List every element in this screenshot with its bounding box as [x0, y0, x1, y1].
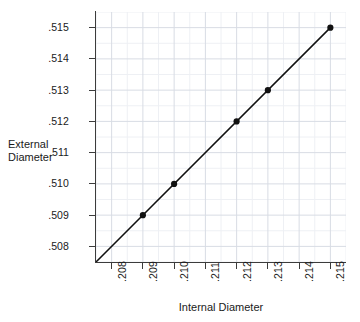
y-axis-tick-label: .513 — [37, 85, 69, 96]
plot-area — [96, 12, 346, 262]
y-axis-tick-label: .508 — [37, 241, 69, 252]
x-axis-tick-mark — [205, 263, 206, 269]
y-axis-tick-mark — [89, 246, 95, 247]
y-axis-tick-mark — [89, 152, 95, 153]
y-axis-title: External Diameter — [8, 138, 68, 163]
y-axis-title-line-2: Diameter — [8, 151, 68, 164]
y-axis-tick-label: .509 — [37, 210, 69, 221]
y-axis-tick-mark — [89, 58, 95, 59]
x-axis-tick-label: .210 — [179, 272, 190, 282]
y-axis-tick-label: .515 — [37, 22, 69, 33]
y-axis-tick-mark — [89, 121, 95, 122]
y-axis-tick-mark — [89, 90, 95, 91]
x-axis-tick-label: .212 — [242, 272, 253, 282]
y-axis-tick-label: .512 — [37, 116, 69, 127]
y-axis-tick-label: .514 — [37, 53, 69, 64]
x-axis-tick-mark — [142, 263, 143, 269]
x-axis-tick-label: .209 — [148, 272, 159, 282]
x-axis-tick-label: .208 — [117, 272, 128, 282]
x-axis-tick-mark — [299, 263, 300, 269]
y-axis-tick-mark — [89, 183, 95, 184]
y-axis-line — [95, 11, 96, 263]
x-axis-tick-mark — [267, 263, 268, 269]
x-axis-tick-label: .215 — [335, 272, 346, 282]
y-axis-tick-label: .510 — [37, 178, 69, 189]
x-axis-tick-mark — [236, 263, 237, 269]
gridlines — [96, 12, 346, 262]
x-axis-title: Internal Diameter — [96, 301, 346, 313]
x-axis-tick-label: .214 — [304, 272, 315, 282]
x-axis-tick-mark — [330, 263, 331, 269]
y-axis-tick-mark — [89, 215, 95, 216]
x-axis-tick-mark — [174, 263, 175, 269]
y-axis-tick-mark — [89, 27, 95, 28]
chart-figure: .508.509.510.511.512.513.514.515 .208.20… — [0, 0, 360, 322]
y-axis-title-line-1: External — [8, 138, 68, 151]
x-axis-tick-label: .211 — [210, 272, 221, 282]
x-axis-tick-label: .213 — [273, 272, 284, 282]
x-axis-tick-mark — [111, 263, 112, 269]
